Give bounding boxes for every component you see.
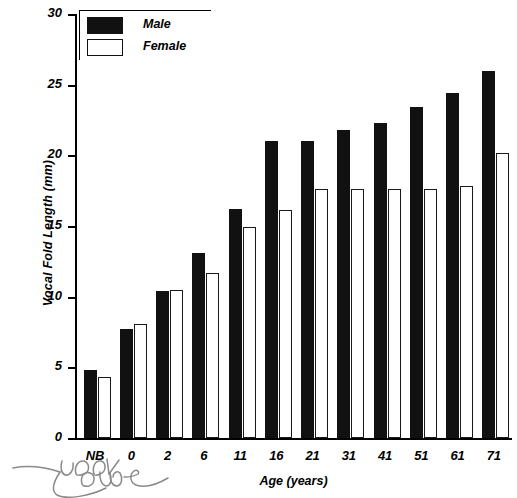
bar-female — [460, 186, 473, 438]
bar-male — [374, 123, 387, 438]
bar-chart-figure: Vocal Fold Length (mm) 051015202530 NB02… — [0, 0, 517, 498]
bar-male — [229, 209, 242, 438]
y-axis-tick: 15 — [68, 226, 76, 228]
bar-female — [496, 153, 509, 438]
x-axis-tick-label: 21 — [305, 448, 319, 463]
bar-male — [156, 291, 169, 438]
bar-female — [315, 189, 328, 438]
bar-group — [446, 14, 473, 438]
legend-swatch-male-icon — [87, 17, 123, 34]
x-axis-tick-label: 41 — [378, 448, 392, 463]
bar-male — [446, 93, 459, 438]
x-axis-tick-label: 11 — [233, 448, 247, 463]
bar-male — [84, 370, 97, 438]
bar-group — [192, 14, 219, 438]
bar-group — [482, 14, 509, 438]
legend-label-female: Female — [143, 39, 186, 53]
bar-group — [229, 14, 256, 438]
y-axis-tick: 20 — [68, 155, 76, 157]
bar-male — [265, 141, 278, 438]
legend-swatch-female-icon — [87, 39, 123, 56]
bar-group — [156, 14, 183, 438]
bar-female — [134, 324, 147, 438]
bars-container — [77, 14, 512, 438]
y-axis-tick-label: 15 — [48, 217, 62, 232]
y-axis-tick-label: 0 — [55, 429, 62, 444]
y-axis-tick: 5 — [68, 367, 76, 369]
x-axis-tick-label: 61 — [450, 448, 464, 463]
x-axis-title: Age (years) — [75, 474, 512, 488]
bar-group — [265, 14, 292, 438]
bar-male — [192, 253, 205, 438]
y-axis-tick-label: 25 — [48, 76, 62, 91]
bar-group — [301, 14, 328, 438]
x-axis-tick-label: 71 — [487, 448, 501, 463]
y-axis-tick: 30 — [68, 14, 76, 16]
bar-male — [482, 71, 495, 438]
y-axis-tick-label: 5 — [55, 358, 62, 373]
y-axis-tick: 10 — [68, 297, 76, 299]
bar-group — [337, 14, 364, 438]
bar-female — [170, 290, 183, 438]
x-axis-tick-label: 6 — [200, 448, 207, 463]
bar-group — [410, 14, 437, 438]
y-axis-tick-label: 20 — [48, 146, 62, 161]
bar-female — [279, 210, 292, 438]
bar-male — [120, 329, 133, 438]
y-axis-tick: 0 — [68, 438, 76, 440]
y-axis-tick: 25 — [68, 85, 76, 87]
bar-male — [337, 130, 350, 438]
bar-male — [410, 107, 423, 438]
x-axis-tick-label: 51 — [414, 448, 428, 463]
bar-group — [84, 14, 111, 438]
x-axis-tick-label: NB — [86, 448, 105, 463]
bar-female — [98, 377, 111, 438]
y-axis-tick-label: 30 — [48, 5, 62, 20]
bar-group — [374, 14, 401, 438]
x-axis-tick-label: 2 — [164, 448, 171, 463]
chart-legend: Male Female — [79, 10, 211, 60]
bar-male — [301, 141, 314, 438]
handwritten-annotation — [10, 448, 200, 498]
handwritten-look-over-icon — [10, 448, 200, 498]
plot-area: 051015202530 NB0261116213141516171 — [75, 14, 512, 438]
bar-female — [351, 189, 364, 438]
bar-female — [206, 273, 219, 438]
y-axis-tick-label: 10 — [48, 288, 62, 303]
x-axis-tick-label: 31 — [342, 448, 356, 463]
legend-label-male: Male — [143, 17, 171, 31]
x-axis-line — [75, 438, 512, 440]
bar-female — [243, 227, 256, 438]
x-axis-tick-label: 16 — [269, 448, 283, 463]
bar-female — [388, 189, 401, 438]
bar-female — [424, 189, 437, 438]
bar-group — [120, 14, 147, 438]
x-axis-tick-label: 0 — [128, 448, 135, 463]
